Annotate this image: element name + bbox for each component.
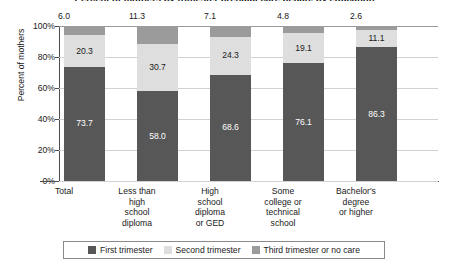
x-label-line: diploma (100, 218, 174, 229)
x-label-line: school (100, 207, 174, 218)
legend-label: First trimester (100, 246, 153, 255)
bar-high-school-diploma[interactable]: 7.1 24.3 68.6 (210, 26, 251, 181)
y-tick-label-60: 60% (19, 84, 55, 93)
legend-item-third-trimester[interactable]: Third trimester or no care (252, 246, 360, 255)
top-value-less-than-high-school: 11.3 (107, 12, 167, 21)
top-value-high-school-diploma: 7.1 (180, 12, 240, 21)
legend-swatch-icon (88, 246, 96, 254)
legend-item-first-trimester[interactable]: First trimester (88, 246, 153, 255)
x-label-line: diploma (173, 207, 247, 218)
chart-legend: First trimester Second trimester Third t… (63, 241, 385, 259)
stacked-bar-chart: Percent of mothers by trimester prenatal… (0, 0, 449, 267)
x-category-label-some-college: Some college or technical school (246, 186, 320, 228)
x-label-line: degree (319, 197, 393, 208)
segment-third-trimester[interactable]: 7.1 (210, 26, 251, 37)
segment-second-trimester[interactable]: 24.3 (210, 37, 251, 75)
top-value-total: 6.0 (34, 12, 94, 21)
chart-title: Percent of mothers by trimester prenatal… (0, 0, 449, 1)
x-label-line: Bachelor's (319, 186, 393, 197)
segment-second-trimester[interactable]: 19.1 (283, 33, 324, 63)
segment-second-trimester[interactable]: 20.3 (64, 35, 105, 66)
y-tick-label-80: 80% (19, 53, 55, 62)
x-label-line: Some (246, 186, 320, 197)
x-label-line: school (246, 218, 320, 229)
legend-label: Third trimester or no care (264, 246, 360, 255)
segment-third-trimester[interactable]: 6.0 (64, 26, 105, 35)
x-category-label-high-school-diploma: High school diploma or GED (173, 186, 247, 228)
segment-second-trimester[interactable]: 11.1 (356, 30, 397, 47)
legend-label: Second trimester (176, 246, 241, 255)
segment-first-trimester[interactable]: 68.6 (210, 75, 251, 181)
segment-first-trimester[interactable]: 58.0 (137, 91, 178, 181)
x-label-line: Less than (100, 186, 174, 197)
x-label-line: or GED (173, 218, 247, 229)
segment-third-trimester[interactable]: 4.8 (283, 26, 324, 33)
segment-second-trimester[interactable]: 30.7 (137, 44, 178, 92)
bar-bachelors-degree[interactable]: 2.6 11.1 86.3 (356, 26, 397, 181)
x-label-line: college or (246, 197, 320, 208)
x-category-label-bachelors-degree: Bachelor's degree or higher (319, 186, 393, 218)
x-category-label-total: Total (27, 186, 101, 197)
y-axis-ticks: 100% 80% 60% 40% 20% 0% (0, 26, 55, 182)
bar-less-than-high-school[interactable]: 11.3 30.7 58.0 (137, 26, 178, 181)
legend-item-second-trimester[interactable]: Second trimester (164, 246, 241, 255)
x-label-line: Total (27, 186, 101, 197)
x-label-line: High (173, 186, 247, 197)
x-label-line: or higher (319, 207, 393, 218)
top-value-some-college: 4.8 (253, 12, 313, 21)
segment-first-trimester[interactable]: 73.7 (64, 67, 105, 181)
legend-swatch-icon (164, 246, 172, 254)
plot-area: 6.0 20.3 73.7 11.3 30.7 58.0 7.1 24.3 68… (59, 26, 438, 181)
segment-third-trimester[interactable]: 11.3 (137, 26, 178, 44)
gridline-0 (59, 181, 438, 182)
segment-first-trimester[interactable]: 86.3 (356, 47, 397, 181)
bar-some-college[interactable]: 4.8 19.1 76.1 (283, 26, 324, 181)
segment-first-trimester[interactable]: 76.1 (283, 63, 324, 181)
y-tick-label-40: 40% (19, 115, 55, 124)
x-category-label-less-than-high-school: Less than high school diploma (100, 186, 174, 228)
y-tick-label-20: 20% (19, 146, 55, 155)
x-label-line: high (100, 197, 174, 208)
bar-total[interactable]: 6.0 20.3 73.7 (64, 26, 105, 181)
x-label-line: school (173, 197, 247, 208)
y-tick-label-100: 100% (19, 22, 55, 31)
top-value-bachelors-degree: 2.6 (326, 12, 386, 21)
x-label-line: technical (246, 207, 320, 218)
legend-swatch-icon (252, 246, 260, 254)
